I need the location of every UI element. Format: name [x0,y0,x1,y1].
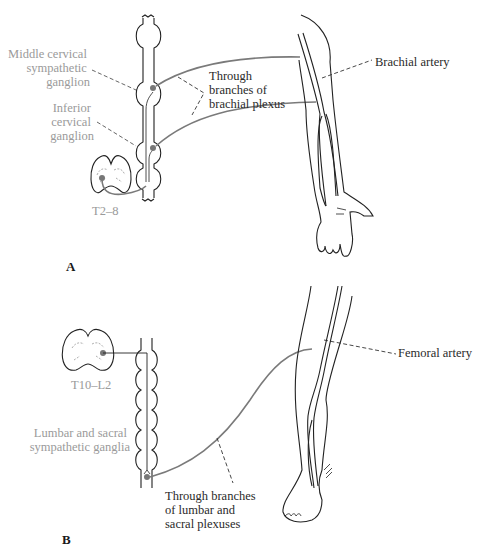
leader-through-branches-a [178,77,204,115]
label-brachial-artery: Brachial artery [375,55,450,69]
leader-middle-ganglion [92,70,136,90]
label-through-branches-brachial: Through branches of brachial plexus [209,69,285,111]
arm-illustration [298,15,373,256]
label-t10-l2: T10–L2 [71,378,111,392]
spinal-cord-section-t10-l2 [62,329,114,370]
spinal-cord-section-t2-8 [91,156,146,195]
sympathetic-innervation-diagram: Middle cervical sympathetic ganglion Inf… [0,0,494,547]
leader-inferior-ganglion [97,122,136,146]
sympathetic-chain-lumbar-sacral [103,338,157,488]
label-femoral-artery: Femoral artery [398,346,473,360]
label-lumbar-sacral-ganglia: Lumbar and sacral sympathetic ganglia [30,426,131,454]
label-through-branches-lumbar-sacral: Through branches of lumbar and sacral pl… [165,489,259,531]
label-middle-ganglion: Middle cervical sympathetic ganglion [8,47,91,89]
label-t2-8: T2–8 [92,204,118,218]
leader-brachial-artery [322,60,372,78]
panel-a: Middle cervical sympathetic ganglion Inf… [8,15,450,274]
panel-letter-b: B [62,532,71,547]
nerve-lumbar-sacral-branch [150,349,312,477]
panel-letter-a: A [66,259,76,274]
panel-b: T10–L2 Lumbar and sacral sympathetic gan… [30,286,473,547]
leg-illustration [283,286,352,522]
leader-femoral-artery [324,340,396,354]
sympathetic-chain-cervical [136,15,161,201]
leader-through-branches-b [217,438,233,483]
label-inferior-ganglion: Inferior cervical ganglion [50,101,94,143]
